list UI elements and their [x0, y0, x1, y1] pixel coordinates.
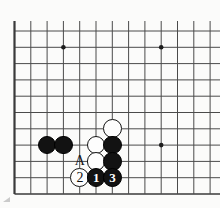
point-marker-A: A [73, 153, 87, 169]
black-stone-left-inner[interactable] [54, 136, 73, 155]
black-move-3[interactable]: 3 [103, 168, 122, 187]
stone-move-number: 3 [109, 171, 115, 184]
star-point-upper-left [61, 45, 66, 50]
stone-move-number: 2 [76, 171, 83, 185]
go-diagram-screenshot: 213 A [0, 0, 220, 208]
star-point-lower-right [159, 143, 164, 148]
stone-move-number: 1 [93, 171, 99, 184]
star-point-upper-right [159, 45, 164, 50]
